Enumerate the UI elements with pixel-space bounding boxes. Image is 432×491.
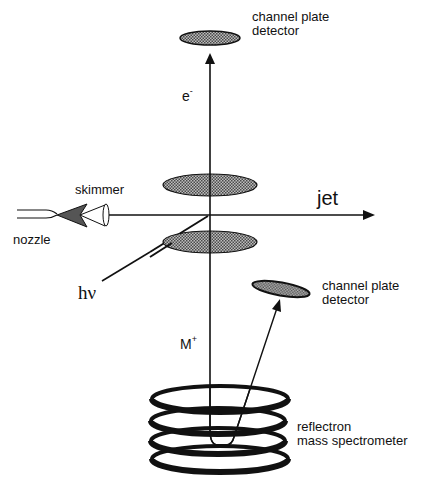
electron-label: e- bbox=[182, 89, 193, 104]
ion-label: M+ bbox=[180, 337, 197, 352]
skimmer bbox=[57, 204, 109, 227]
ion-symbol: M bbox=[180, 336, 192, 352]
arrow-right-icon bbox=[363, 210, 375, 220]
diagram-graphics bbox=[0, 0, 432, 491]
ion-trajectory bbox=[210, 299, 281, 445]
top-detector-label-line1: channel plate bbox=[252, 10, 329, 24]
top-detector-label-line2: detector bbox=[252, 24, 329, 38]
reflectron-rings bbox=[151, 386, 288, 472]
top-detector-plate bbox=[180, 31, 240, 45]
diagram-canvas: channel plate detector e- skimmer nozzle… bbox=[0, 0, 432, 491]
jet-axis bbox=[108, 210, 375, 220]
reflectron-label: reflectron mass spectrometer bbox=[297, 420, 408, 447]
reflectron-label-line1: reflectron bbox=[297, 420, 408, 434]
side-detector-label-line2: detector bbox=[322, 293, 399, 307]
extraction-plate-lower bbox=[150, 231, 257, 257]
jet-label: jet bbox=[317, 188, 338, 209]
arrow-diag-icon bbox=[272, 299, 281, 312]
photon-label: hν bbox=[78, 283, 96, 303]
ion-charge: + bbox=[192, 334, 197, 344]
side-detector-label-line1: channel plate bbox=[322, 279, 399, 293]
electron-symbol: e bbox=[182, 88, 190, 104]
electron-charge: - bbox=[190, 86, 193, 96]
skimmer-label: skimmer bbox=[75, 183, 124, 197]
nozzle bbox=[17, 210, 57, 218]
side-detector-label: channel plate detector bbox=[322, 279, 399, 306]
reflectron-label-line2: mass spectrometer bbox=[297, 434, 408, 448]
top-detector-label: channel plate detector bbox=[252, 10, 329, 37]
arrow-up-icon bbox=[205, 53, 215, 64]
extraction-plate-upper bbox=[163, 174, 257, 196]
nozzle-label: nozzle bbox=[13, 233, 51, 247]
side-detector-plate bbox=[251, 278, 310, 301]
